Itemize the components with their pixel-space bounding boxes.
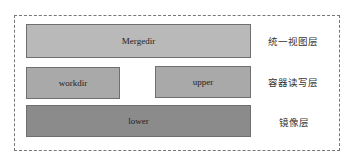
mergedir-label: Mergedir [122, 36, 155, 46]
upper-box: upper [155, 66, 251, 98]
lower-box: lower [26, 105, 251, 137]
lower-label: lower [128, 116, 149, 126]
image-layer-label: 镜像层 [279, 115, 309, 129]
container-rw-layer-label: 容器读写层 [268, 75, 318, 89]
unified-view-layer-label: 统一视图层 [268, 34, 318, 48]
upper-label: upper [193, 77, 214, 87]
workdir-box: workdir [26, 67, 120, 99]
mergedir-box: Mergedir [26, 24, 251, 58]
workdir-label: workdir [59, 78, 88, 88]
